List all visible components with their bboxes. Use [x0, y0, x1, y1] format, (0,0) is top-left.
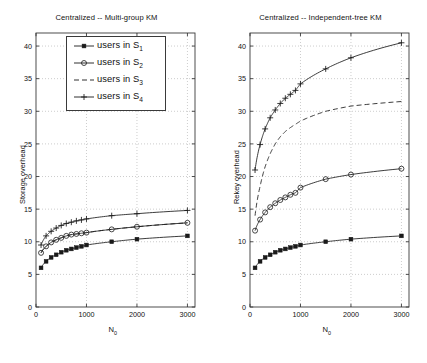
chart-panel-left: Centralized -- Multi-group KM Storage ov…	[0, 0, 213, 363]
svg-text:30: 30	[238, 107, 246, 116]
legend-item-3: users in S3	[67, 71, 165, 88]
legend-item-1: users in S1	[67, 37, 165, 54]
legend: users in S1users in S2users in S3users i…	[66, 36, 166, 111]
series-users-in-s-1	[39, 234, 189, 270]
svg-text:0: 0	[28, 303, 32, 312]
svg-text:1000: 1000	[292, 310, 308, 319]
svg-text:0: 0	[248, 310, 252, 319]
svg-text:25: 25	[24, 140, 32, 149]
series-users-in-s-3	[41, 223, 187, 253]
chart-panel-right: Centralized -- Independent-tree KM Rekey…	[214, 0, 427, 363]
svg-text:1000: 1000	[78, 310, 94, 319]
svg-text:20: 20	[24, 172, 32, 181]
svg-text:5: 5	[242, 270, 246, 279]
svg-text:35: 35	[24, 74, 32, 83]
svg-text:10: 10	[238, 237, 246, 246]
figure-container: Centralized -- Multi-group KM Storage ov…	[0, 0, 427, 363]
legend-marker-none	[71, 73, 97, 87]
svg-text:0: 0	[242, 303, 246, 312]
svg-text:35: 35	[238, 74, 246, 83]
svg-text:30: 30	[24, 107, 32, 116]
svg-text:3000: 3000	[393, 310, 409, 319]
series-users-in-s-1	[253, 234, 403, 270]
plot-area-right: 05101520253035400100020003000	[214, 0, 427, 363]
svg-text:10: 10	[24, 237, 32, 246]
svg-text:2000: 2000	[343, 310, 359, 319]
legend-item-4: users in S4	[67, 88, 165, 105]
legend-item-2: users in S2	[67, 54, 165, 71]
svg-text:20: 20	[238, 172, 246, 181]
svg-text:40: 40	[24, 42, 32, 51]
x-axis-label-subscript: 0	[114, 330, 117, 336]
series-users-in-s-2	[253, 166, 404, 233]
x-axis-label-subscript: 0	[328, 330, 331, 336]
legend-marker-filled-square	[71, 39, 97, 53]
svg-text:5: 5	[28, 270, 32, 279]
series-users-in-s-3	[255, 102, 401, 216]
legend-marker-plus	[71, 90, 97, 104]
legend-label: users in S3	[97, 74, 143, 86]
svg-text:25: 25	[238, 140, 246, 149]
svg-text:15: 15	[238, 205, 246, 214]
svg-text:15: 15	[24, 205, 32, 214]
series-users-in-s-4	[252, 40, 404, 173]
x-axis-label-left: N0	[109, 325, 117, 336]
legend-label: users in S2	[97, 57, 143, 69]
svg-text:2000: 2000	[129, 310, 145, 319]
legend-marker-open-circle	[71, 56, 97, 70]
x-axis-label-right: N0	[323, 325, 331, 336]
svg-text:0: 0	[34, 310, 38, 319]
svg-text:3000: 3000	[179, 310, 195, 319]
legend-label: users in S1	[97, 40, 143, 52]
legend-label: users in S4	[97, 91, 143, 103]
svg-text:40: 40	[238, 42, 246, 51]
